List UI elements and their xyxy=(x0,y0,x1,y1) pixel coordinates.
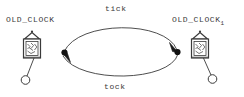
clock-pendulum-bob-right xyxy=(208,75,217,84)
node-label-subscript: 1 xyxy=(221,20,225,27)
edge-tock[interactable] xyxy=(62,53,178,77)
clock-pendulum-rod-right xyxy=(203,57,211,75)
node-old-clock-right[interactable] xyxy=(192,31,217,84)
edge-tock-path xyxy=(63,54,178,76)
edge-tick-path xyxy=(64,28,177,52)
node-label-text: OLD_CLOCK xyxy=(6,15,55,24)
clock-roof-left xyxy=(25,33,40,40)
node-old-clock-left[interactable] xyxy=(21,31,40,85)
node-label-old-clock-right: OLD_CLOCK1 xyxy=(172,16,224,27)
edge-source-dot-left xyxy=(61,49,67,55)
edge-source-dot-right xyxy=(174,49,180,55)
clock-pendulum-rod-left xyxy=(27,58,34,76)
clock-roof-right xyxy=(193,33,208,40)
edge-label-tock: tock xyxy=(104,83,126,91)
clock-transition-diagram: OLD_CLOCK OLD_CLOCK1 tick tock xyxy=(0,0,244,97)
edge-label-tick: tick xyxy=(105,5,127,13)
node-label-text: OLD_CLOCK xyxy=(172,15,221,24)
node-label-old-clock-left: OLD_CLOCK xyxy=(6,16,55,24)
clock-roof-knob-left xyxy=(31,31,33,33)
clock-roof-knob-right xyxy=(199,31,201,33)
edge-tick[interactable] xyxy=(64,28,178,53)
clock-pendulum-bob-left xyxy=(21,76,30,85)
